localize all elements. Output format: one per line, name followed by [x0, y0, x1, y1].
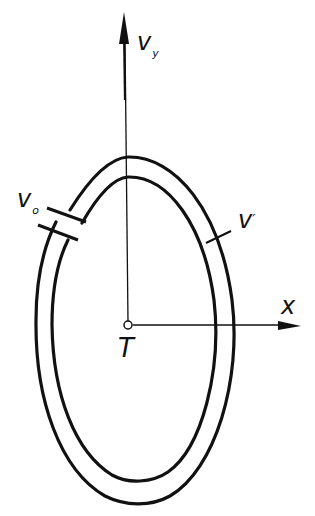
vprime-label: v′	[238, 208, 255, 232]
inner-ring	[52, 177, 216, 481]
outer-ring	[36, 157, 234, 504]
v0-label: vo	[17, 187, 38, 211]
vy-label-main: v	[137, 28, 151, 56]
vy-label: vy	[137, 30, 158, 54]
x-arrowhead-icon	[278, 321, 301, 330]
origin-label: T	[118, 335, 134, 361]
origin-point	[124, 321, 132, 329]
vy-axis	[119, 12, 129, 322]
v0-label-main: v	[17, 185, 31, 213]
v0-label-subscript: o	[32, 204, 39, 217]
vy-arrowhead-icon	[119, 12, 129, 44]
gap-marker	[38, 208, 86, 240]
vprime-label-main: v	[238, 206, 252, 234]
vprime-label-prime: ′	[252, 211, 255, 227]
conveyor-loop-diagram: vy vo v′ x T	[0, 0, 315, 516]
vy-label-subscript: y	[152, 47, 159, 60]
x-axis-label: x	[281, 294, 295, 318]
